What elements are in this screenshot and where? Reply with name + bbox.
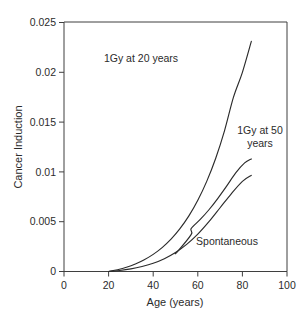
x-axis-ticks xyxy=(64,272,287,277)
x-tick-label-4: 80 xyxy=(237,279,249,291)
annotation-1gy-at-50-line2: years xyxy=(247,137,273,149)
x-axis-title: Age (years) xyxy=(147,296,204,308)
x-tick-label-1: 20 xyxy=(103,279,115,291)
y-tick-label-0: 0 xyxy=(50,265,56,277)
annotation-spontaneous: Spontaneous xyxy=(196,235,258,247)
annotation-1gy-at-50-line1: 1Gy at 50 xyxy=(237,124,283,136)
x-tick-label-5: 100 xyxy=(278,279,296,291)
y-tick-label-2: 0.01 xyxy=(36,166,57,178)
x-tick-label-2: 40 xyxy=(147,279,159,291)
cancer-induction-line-chart: 0 0.005 0.01 0.015 0.02 0.025 0 20 40 60… xyxy=(0,0,305,317)
y-tick-label-3: 0.015 xyxy=(30,116,56,128)
y-axis-title: Cancer Induction xyxy=(12,105,24,188)
y-tick-label-1: 0.005 xyxy=(30,215,56,227)
series-line-spontaneous xyxy=(109,175,252,271)
y-axis-ticks xyxy=(59,23,64,272)
x-tick-label-0: 0 xyxy=(61,279,67,291)
y-tick-label-5: 0.025 xyxy=(30,16,56,28)
x-tick-label-3: 60 xyxy=(192,279,204,291)
chart-figure: 0 0.005 0.01 0.015 0.02 0.025 0 20 40 60… xyxy=(0,0,305,317)
y-tick-label-4: 0.02 xyxy=(36,66,57,78)
annotation-1gy-at-20-years: 1Gy at 20 years xyxy=(104,52,178,64)
